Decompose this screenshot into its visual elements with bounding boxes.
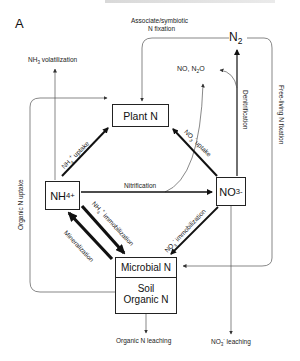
plant-n-node: Plant N <box>112 104 169 127</box>
organic-n-uptake-label: Organic N uptake <box>17 179 24 230</box>
free-living-fixation-label: Free-living N fixation <box>278 85 285 144</box>
nitrification-label: Nitrification <box>124 182 156 189</box>
nh4-node: NH4+ <box>45 181 80 210</box>
no-n2o-label: NO, N2O <box>177 65 205 72</box>
soil-organic-n-node: Soil Organic N <box>116 278 176 305</box>
organic-n-label: Organic N <box>116 294 176 305</box>
nh3-volatilization-label: NH3 volatilization <box>28 56 77 63</box>
microbial-n-node: Microbial N <box>116 258 176 278</box>
no3-node: NO3- <box>216 177 246 206</box>
soil-label: Soil <box>116 283 176 294</box>
organic-n-leaching-label: Organic N leaching <box>116 337 171 344</box>
assoc-fixation-label-line1: Associate/symbiotic <box>131 17 188 24</box>
assoc-fixation-label-line2: N fixation <box>148 25 175 32</box>
denitrification-label: Denitrification <box>242 90 249 129</box>
no3-leaching-label: NO3- leaching <box>211 338 251 345</box>
n2-node: N2 <box>229 30 242 44</box>
microbial-soil-organic-n-node: Microbial N Soil Organic N <box>115 257 177 314</box>
panel-label: A <box>15 16 24 31</box>
